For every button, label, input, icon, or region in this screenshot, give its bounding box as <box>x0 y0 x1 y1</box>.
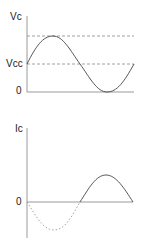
vc-chart <box>27 16 134 92</box>
ic-negative-half-dotted <box>27 202 80 230</box>
vcc-tick-label: Vcc <box>6 59 23 69</box>
vc-axis-label: Vc <box>10 12 22 22</box>
ic-zero-tick-label: 0 <box>16 197 22 207</box>
vc-zero-tick-label: 0 <box>16 86 22 96</box>
waveform-svg <box>0 0 152 248</box>
ic-positive-half-solid <box>80 175 133 202</box>
waveform-diagram: Vc Vcc 0 Ic 0 <box>0 0 152 248</box>
ic-axis-label: Ic <box>15 124 23 134</box>
ic-chart <box>27 128 133 238</box>
